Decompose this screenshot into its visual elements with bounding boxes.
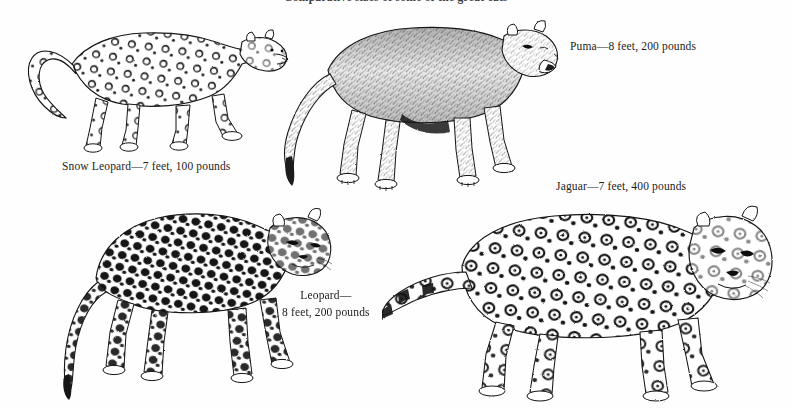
illustration-page: Comparative sizes of some of the great c…	[0, 0, 792, 409]
caption-leopard: Leopard— 8 feet, 200 pounds	[282, 287, 370, 321]
caption-puma: Puma—8 feet, 200 pounds	[570, 38, 696, 55]
snow-leopard-illustration	[10, 6, 310, 156]
running-title: Comparative sizes of some of the great c…	[0, 0, 792, 3]
puma-illustration	[282, 8, 567, 203]
caption-leopard-line1: Leopard—	[282, 287, 370, 304]
caption-snow-leopard: Snow Leopard—7 feet, 100 pounds	[62, 158, 231, 175]
jaguar-illustration	[382, 188, 784, 406]
caption-leopard-line2: 8 feet, 200 pounds	[282, 304, 370, 321]
caption-jaguar: Jaguar—7 feet, 400 pounds	[556, 178, 686, 195]
